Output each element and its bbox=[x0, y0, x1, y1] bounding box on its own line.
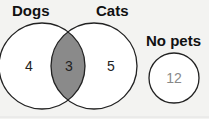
cats-label: Cats bbox=[96, 2, 129, 19]
cats-only-count: 5 bbox=[107, 58, 115, 74]
no-pets-label: No pets bbox=[146, 32, 201, 49]
no-pets-count: 12 bbox=[166, 70, 182, 86]
intersection-count: 3 bbox=[65, 58, 73, 74]
dogs-only-count: 4 bbox=[25, 58, 33, 74]
dogs-label: Dogs bbox=[12, 2, 50, 19]
venn-diagram: Dogs Cats No pets 4 3 5 12 bbox=[0, 0, 209, 119]
